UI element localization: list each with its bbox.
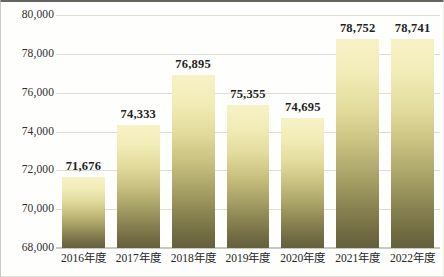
bar-slot: 74,695 bbox=[281, 15, 324, 248]
bar-value-label: 76,895 bbox=[175, 58, 211, 71]
bar-value-label: 71,676 bbox=[66, 160, 102, 173]
bar[interactable] bbox=[62, 177, 105, 248]
bar[interactable] bbox=[391, 39, 434, 248]
x-axis-tick-label: 2017年度 bbox=[111, 252, 166, 266]
x-axis-tick-label: 2020年度 bbox=[275, 252, 330, 266]
x-axis-tick-label: 2021年度 bbox=[330, 252, 385, 266]
bar[interactable] bbox=[281, 118, 324, 248]
y-axis-tick-label: 74,000 bbox=[2, 126, 54, 138]
x-axis-tick-label: 2022年度 bbox=[385, 252, 440, 266]
x-axis-tick-label: 2019年度 bbox=[221, 252, 276, 266]
y-axis-tick-label: 76,000 bbox=[2, 87, 54, 99]
bar[interactable] bbox=[227, 105, 270, 248]
bar[interactable] bbox=[117, 125, 160, 248]
y-axis-tick-label: 78,000 bbox=[2, 48, 54, 60]
bar[interactable] bbox=[336, 39, 379, 248]
bar[interactable] bbox=[172, 75, 215, 248]
bar-value-label: 74,333 bbox=[120, 108, 156, 121]
bar-value-label: 78,752 bbox=[340, 22, 376, 35]
bar-series: 71,67674,33376,89575,35574,69578,75278,7… bbox=[56, 15, 440, 248]
bar-value-label: 75,355 bbox=[230, 88, 266, 101]
y-axis-tick-label: 70,000 bbox=[2, 203, 54, 215]
bar-slot: 76,895 bbox=[172, 15, 215, 248]
y-axis-tick-label: 72,000 bbox=[2, 164, 54, 176]
bar-slot: 71,676 bbox=[62, 15, 105, 248]
y-axis-tick-label: 68,000 bbox=[2, 242, 54, 254]
bar-slot: 74,333 bbox=[117, 15, 160, 248]
bar-chart: 80,00078,00076,00074,00072,00070,00068,0… bbox=[0, 0, 444, 277]
bar-value-label: 74,695 bbox=[285, 101, 321, 114]
y-axis-tick-label: 80,000 bbox=[2, 9, 54, 21]
chart-frame-top-border bbox=[0, 0, 444, 2]
bar-value-label: 78,741 bbox=[395, 22, 431, 35]
gridline bbox=[56, 248, 440, 249]
x-axis: 2016年度2017年度2018年度2019年度2020年度2021年度2022… bbox=[56, 252, 440, 274]
bar-slot: 75,355 bbox=[227, 15, 270, 248]
y-axis: 80,00078,00076,00074,00072,00070,00068,0… bbox=[0, 0, 54, 277]
x-axis-tick-label: 2016年度 bbox=[56, 252, 111, 266]
x-axis-tick-label: 2018年度 bbox=[166, 252, 221, 266]
bar-slot: 78,752 bbox=[336, 15, 379, 248]
bar-slot: 78,741 bbox=[391, 15, 434, 248]
